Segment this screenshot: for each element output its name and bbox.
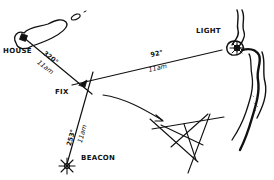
beacon-bearing-line	[67, 72, 93, 164]
navigation-fix-diagram: House Light Beacon Fix 320° 11am 92° 11a…	[0, 0, 274, 180]
island-shape	[15, 11, 86, 49]
fix-label: Fix	[55, 89, 69, 96]
beacon-label: Beacon	[81, 155, 115, 162]
light-bearing-line	[72, 50, 222, 85]
beacon-icon	[59, 158, 75, 174]
lighthouse-icon	[230, 41, 244, 55]
diagram-drawing	[0, 0, 274, 180]
light-label: Light	[196, 28, 221, 35]
curved-arrow	[103, 95, 162, 120]
coastline-shape	[227, 10, 266, 150]
house-label: House	[3, 48, 32, 55]
inset-cocked-hat-drawing	[150, 114, 224, 173]
arrowhead-icon	[155, 115, 163, 121]
